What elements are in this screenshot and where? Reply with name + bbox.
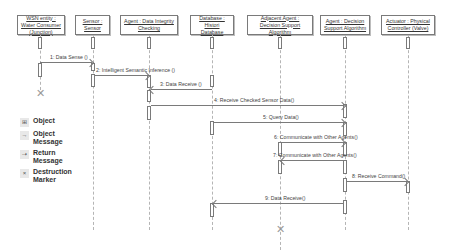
- legend-item-destruction-marker: × Destruction Marker: [20, 168, 90, 184]
- activation-bar: [406, 37, 410, 49]
- message-4-label: 4: Receive Checked Sensor Data(): [214, 97, 294, 103]
- legend: ⊞ Object → Object Message ⇢ Return Messa…: [20, 117, 90, 187]
- message-7-label: 7: Communicate with Other Agents(): [273, 152, 357, 158]
- activation-bar: [210, 37, 214, 49]
- message-6-arrow: [282, 142, 344, 143]
- message-1-arrow: [40, 62, 92, 63]
- message-4-arrow: [151, 105, 344, 106]
- activation-bar: [147, 37, 151, 49]
- message-7-arrow: [282, 160, 344, 161]
- object-sensor: Sensor : Sensor: [75, 15, 110, 35]
- object-agent-decision: Agent : Decision Support Algorithm: [320, 15, 370, 35]
- message-5-arrow: [214, 122, 344, 123]
- activation-bar: [343, 160, 347, 174]
- object-adjacent-agent: Adjacent Agent : Decision Support Algori…: [247, 15, 313, 35]
- destruction-marker-icon: ✕: [275, 224, 286, 235]
- legend-item-object: ⊞ Object: [20, 117, 90, 127]
- message-8-arrow: [347, 181, 407, 182]
- activation-bar: [147, 106, 151, 120]
- destruction-marker-icon: ×: [20, 169, 29, 178]
- object-actuator: Actuator : Physical Controller (Valve): [381, 15, 435, 35]
- message-5-label: 5: Query Data(): [263, 114, 299, 120]
- object-icon: ⊞: [20, 118, 29, 127]
- object-wsn-entity: WSN entity : Water Consumer (Junction): [17, 15, 65, 35]
- object-message-icon: →: [20, 131, 29, 140]
- activation-bar: [343, 37, 347, 49]
- legend-label: Object: [33, 117, 55, 125]
- legend-item-return-message: ⇢ Return Message: [20, 149, 90, 165]
- message-3-arrow: [151, 89, 212, 90]
- activation-bar: [38, 63, 42, 77]
- object-database: Database : Histori Database: [190, 15, 234, 35]
- message-1-label: 1: Data Sense (): [50, 54, 88, 60]
- destruction-marker-icon: ✕: [35, 88, 46, 99]
- activation-bar: [91, 37, 95, 49]
- activation-bar: [38, 37, 42, 49]
- legend-item-object-message: → Object Message: [20, 130, 90, 146]
- object-agent-data-integrity: Agent : Data Integrity Checking: [120, 15, 178, 35]
- message-3-label: 3: Data Receive (): [160, 81, 202, 87]
- message-8-label: 8: Receive Command(): [352, 173, 405, 179]
- legend-label: Return Message: [33, 149, 69, 165]
- activation-bar: [210, 75, 214, 87]
- legend-label: Destruction Marker: [33, 168, 79, 184]
- message-2-label: 2: Intelligent Semantic Inference (): [96, 67, 175, 73]
- activation-bar: [210, 121, 214, 135]
- message-9-arrow: [214, 203, 344, 204]
- lifeline-agent-data-integrity: [149, 35, 150, 230]
- message-2-arrow: [94, 75, 148, 76]
- activation-bar: [278, 37, 282, 49]
- message-9-label: 9: Data Receive(): [265, 195, 305, 201]
- message-6-label: 6: Communicate with Other Agents(): [274, 134, 358, 140]
- return-message-icon: ⇢: [20, 150, 29, 159]
- lifeline-actuator: [408, 35, 409, 230]
- legend-label: Object Message: [33, 130, 69, 146]
